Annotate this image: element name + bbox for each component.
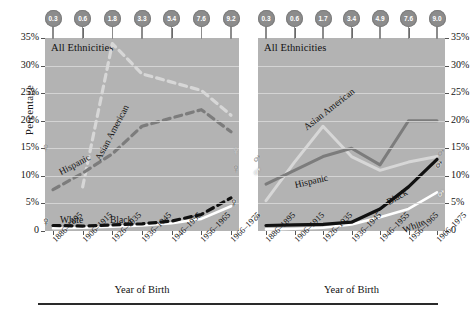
gridline xyxy=(45,121,239,122)
y-axis-title: Percentage xyxy=(23,35,35,185)
pin-marker[interactable]: 0.3 xyxy=(45,10,62,27)
y-tick-mark xyxy=(41,176,45,177)
sex-symbol-marker: ♀ xyxy=(41,141,51,154)
y-tick-label: 0 xyxy=(0,224,39,235)
sex-symbol-marker: ♂ xyxy=(252,211,262,224)
chart-figure: Percentage All Ethnicities All Ethniciti… xyxy=(0,0,473,313)
y-tick-label: 30% xyxy=(0,59,39,70)
gridline xyxy=(258,121,445,122)
pin-stem xyxy=(294,26,296,39)
x-axis-title-right: Year of Birth xyxy=(258,284,445,295)
y-tick-mark xyxy=(445,176,449,177)
y-tick-mark xyxy=(445,66,449,67)
series-line-hispanic xyxy=(266,121,437,184)
y-tick-label: 25% xyxy=(451,86,469,97)
pin-marker[interactable]: 9.0 xyxy=(429,10,446,27)
pin-stem xyxy=(230,26,232,39)
sex-symbol-marker: ♂ xyxy=(434,158,444,171)
pin-stem xyxy=(82,26,84,39)
y-tick-label: 30% xyxy=(451,59,469,70)
pin-stem xyxy=(379,26,381,39)
pin-stem xyxy=(322,26,324,39)
pin-marker[interactable]: 1.8 xyxy=(104,10,121,27)
y-tick-mark xyxy=(445,93,449,94)
pin-stem xyxy=(436,26,438,39)
series-line-asian-american xyxy=(266,126,437,200)
pin-stem xyxy=(265,26,267,39)
pin-stem xyxy=(171,26,173,39)
pin-marker[interactable]: 5.4 xyxy=(163,10,180,27)
pin-marker[interactable]: 4.9 xyxy=(372,10,389,27)
pin-marker[interactable]: 0.6 xyxy=(74,10,91,27)
sex-symbol-marker: ♂ xyxy=(252,165,262,178)
y-tick-label: 20% xyxy=(0,114,39,125)
pin-marker[interactable]: 7.6 xyxy=(193,10,210,27)
panel-female: All Ethnicities xyxy=(45,38,239,231)
y-tick-mark xyxy=(41,66,45,67)
pin-marker[interactable]: 0.3 xyxy=(258,10,275,27)
bottom-rule xyxy=(38,303,438,305)
pin-marker[interactable]: 7.6 xyxy=(400,10,417,27)
y-tick-mark xyxy=(445,121,449,122)
sex-symbol-marker: ♀ xyxy=(41,215,51,228)
pin-marker[interactable]: 3.3 xyxy=(134,10,151,27)
panel-male: All Ethnicities xyxy=(258,38,445,231)
gridline xyxy=(258,148,445,149)
gridline xyxy=(45,148,239,149)
y-tick-mark xyxy=(41,231,45,232)
x-axis-title-left: Year of Birth xyxy=(45,284,239,295)
gridline xyxy=(45,203,239,204)
pin-marker[interactable]: 0.6 xyxy=(286,10,303,27)
sex-symbol-marker: ♂ xyxy=(436,187,446,200)
sex-symbol-marker: ♀ xyxy=(231,144,241,157)
y-tick-mark xyxy=(41,38,45,39)
pin-stem xyxy=(112,26,114,39)
gridline xyxy=(45,93,239,94)
y-tick-mark xyxy=(41,203,45,204)
pin-marker[interactable]: 1.7 xyxy=(315,10,332,27)
y-tick-label: 35% xyxy=(0,31,39,42)
y-tick-mark xyxy=(41,121,45,122)
gridline xyxy=(258,176,445,177)
y-tick-label: 10% xyxy=(0,169,39,180)
y-tick-label: 35% xyxy=(451,31,469,42)
y-tick-label: 5% xyxy=(0,196,39,207)
gridline xyxy=(258,203,445,204)
y-tick-mark xyxy=(445,203,449,204)
series-plot-right xyxy=(258,38,445,231)
y-tick-label: 20% xyxy=(451,114,469,125)
gridline xyxy=(258,66,445,67)
pin-stem xyxy=(351,26,353,39)
pin-marker[interactable]: 3.4 xyxy=(343,10,360,27)
y-tick-mark xyxy=(41,93,45,94)
y-tick-label: 5% xyxy=(451,196,464,207)
pin-stem xyxy=(52,26,54,39)
y-tick-label: 25% xyxy=(0,86,39,97)
sex-symbol-marker: ♀ xyxy=(231,162,241,175)
pin-stem xyxy=(408,26,410,39)
y-tick-label: 15% xyxy=(451,141,469,152)
y-tick-label: 10% xyxy=(451,169,469,180)
sex-symbol-marker: ♀ xyxy=(229,196,239,209)
curve-label-white: White xyxy=(60,215,83,225)
y-tick-mark xyxy=(445,38,449,39)
pin-stem xyxy=(141,26,143,39)
series-plot-left xyxy=(45,38,239,231)
gridline xyxy=(45,176,239,177)
gridline xyxy=(45,66,239,67)
pin-stem xyxy=(201,26,203,39)
pin-marker[interactable]: 9.2 xyxy=(223,10,240,27)
y-tick-label: 15% xyxy=(0,141,39,152)
curve-label-black: Black xyxy=(110,215,132,225)
